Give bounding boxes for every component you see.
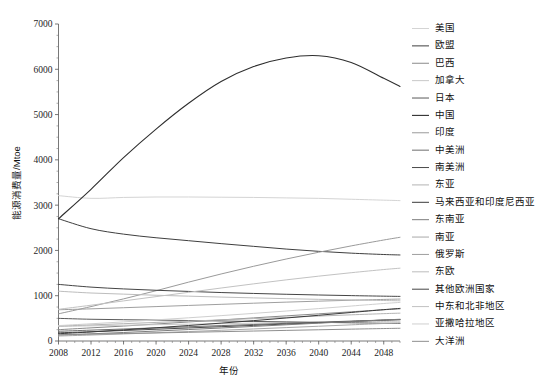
legend-item-label[interactable]: 欧盟: [435, 39, 455, 50]
energy-consumption-line-chart: 01000200030004000500060007000 2008201220…: [0, 0, 548, 388]
legend-item-label[interactable]: 南亚: [435, 231, 455, 242]
legend-item-label[interactable]: 马来西亚和印度尼西亚: [435, 196, 535, 207]
y-tick-label: 0: [48, 336, 53, 346]
x-tick-label: 2008: [49, 348, 68, 358]
legend-item-label[interactable]: 加拿大: [435, 74, 465, 85]
legend-item-label[interactable]: 中东和北非地区: [435, 300, 505, 311]
legend-item-label[interactable]: 巴西: [435, 57, 455, 68]
x-tick-label: 2048: [374, 348, 393, 358]
y-tick-label: 1000: [34, 291, 53, 301]
legend-item-label[interactable]: 印度: [435, 126, 455, 137]
plot-background: [0, 0, 548, 388]
chart-canvas: 01000200030004000500060007000 2008201220…: [0, 0, 548, 388]
x-tick-label: 2016: [114, 348, 133, 358]
legend-item-label[interactable]: 大洋洲: [435, 335, 465, 346]
y-axis-title: 能源消费量/Mtoe: [11, 146, 22, 220]
legend-item-label[interactable]: 其他欧洲国家: [435, 283, 495, 294]
y-tick-label: 3000: [34, 201, 53, 211]
legend-item-label[interactable]: 中美洲: [435, 144, 465, 155]
legend-item-label[interactable]: 中国: [435, 109, 455, 120]
x-tick-label: 2012: [82, 348, 101, 358]
y-tick-label: 2000: [34, 246, 53, 256]
y-tick-label: 7000: [34, 19, 53, 29]
x-tick-label: 2036: [277, 348, 296, 358]
legend-item-label[interactable]: 东欧: [435, 265, 455, 276]
y-tick-label: 4000: [34, 155, 53, 165]
legend-item-label[interactable]: 东南亚: [435, 213, 465, 224]
x-tick-label: 2032: [244, 348, 263, 358]
y-tick-label: 6000: [34, 65, 53, 75]
x-tick-label: 2020: [147, 348, 166, 358]
legend-item-label[interactable]: 美国: [435, 22, 455, 33]
legend-item-label[interactable]: 东亚: [435, 178, 455, 189]
x-tick-label: 2044: [342, 348, 361, 358]
legend-item-label[interactable]: 日本: [435, 92, 455, 103]
legend-item-label[interactable]: 亚撒哈拉地区: [435, 317, 495, 328]
x-tick-label: 2040: [309, 348, 328, 358]
x-axis-title: 年份: [219, 365, 239, 376]
legend-item-label[interactable]: 俄罗斯: [435, 248, 465, 259]
legend-item-label[interactable]: 南美洲: [435, 161, 465, 172]
x-tick-label: 2024: [179, 348, 198, 358]
x-tick-label: 2028: [212, 348, 231, 358]
y-tick-label: 5000: [34, 110, 53, 120]
